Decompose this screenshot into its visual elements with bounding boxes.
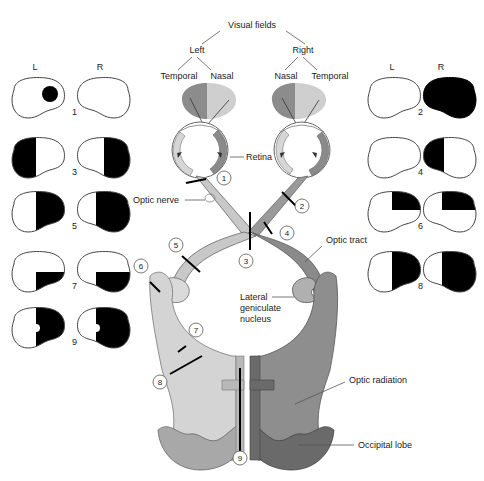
defect-1: 1 <box>12 78 130 119</box>
lesion-2: 2 <box>300 202 305 211</box>
svg-text:4: 4 <box>418 167 423 177</box>
svg-text:8: 8 <box>418 281 423 291</box>
optic-radiation-label: Optic radiation <box>349 375 407 385</box>
lesion-8: 8 <box>158 378 163 387</box>
right-nasal-label: Nasal <box>274 71 297 81</box>
left-eye <box>172 122 228 178</box>
defect-8: 8 <box>368 250 482 300</box>
field-defects-left-column: L R 1 3 5 <box>6 62 144 356</box>
left-temporal-label: Temporal <box>160 71 197 81</box>
col-header-L-right: L <box>389 62 394 72</box>
occipital-lobe-label: Occipital lobe <box>358 440 412 450</box>
diagram-canvas: Visual fields Left Right Temporal Nasal … <box>0 0 484 481</box>
svg-text:5: 5 <box>72 221 77 231</box>
retina-label: Retina <box>246 152 272 162</box>
svg-text:1: 1 <box>72 107 77 117</box>
col-header-R-left: R <box>97 62 104 72</box>
defect-6: 6 <box>368 190 482 232</box>
lesion-1: 1 <box>222 174 227 183</box>
right-eye <box>274 122 330 178</box>
visual-fields-hierarchy: Visual fields Left Right Temporal Nasal … <box>160 20 348 81</box>
defect-2: 2 <box>368 78 476 119</box>
lesion-6: 6 <box>139 262 144 271</box>
defect-5: 5 <box>12 190 136 240</box>
lgn-label-line2: geniculate <box>240 303 281 313</box>
svg-text:3: 3 <box>72 167 77 177</box>
optic-nerve-label: Optic nerve <box>133 195 179 205</box>
svg-text:9: 9 <box>72 337 77 347</box>
col-header-R-right: R <box>438 62 445 72</box>
svg-text:6: 6 <box>418 221 423 231</box>
visual-fields-title: Visual fields <box>228 20 276 30</box>
right-lgn <box>292 278 316 303</box>
optic-tract-label: Optic tract <box>326 235 368 245</box>
lesion-5: 5 <box>174 241 179 250</box>
col-header-L-left: L <box>32 62 37 72</box>
lesion-4: 4 <box>285 229 290 238</box>
defect-3: 3 <box>6 136 144 186</box>
field-defects-right-column: L R 2 4 6 <box>368 62 482 300</box>
lesion-7: 7 <box>194 326 199 335</box>
right-temporal-label: Temporal <box>311 71 348 81</box>
lesion-9: 9 <box>238 454 243 463</box>
svg-text:2: 2 <box>418 107 423 117</box>
left-label: Left <box>189 45 205 55</box>
defect-7: 7 <box>12 252 136 303</box>
left-optic-radiation <box>150 272 244 470</box>
defect-4: 4 <box>368 136 476 186</box>
lgn-label-line3: nucleus <box>240 314 272 324</box>
optic-pathway <box>170 176 326 292</box>
right-label: Right <box>292 45 314 55</box>
svg-text:7: 7 <box>72 281 77 291</box>
lgn-label-line1: Lateral <box>240 292 268 302</box>
lesion-3: 3 <box>244 257 249 266</box>
left-nasal-label: Nasal <box>210 71 233 81</box>
visual-pathway-diagram: Visual fields Left Right Temporal Nasal … <box>0 0 484 481</box>
defect-9: 9 <box>12 306 136 356</box>
